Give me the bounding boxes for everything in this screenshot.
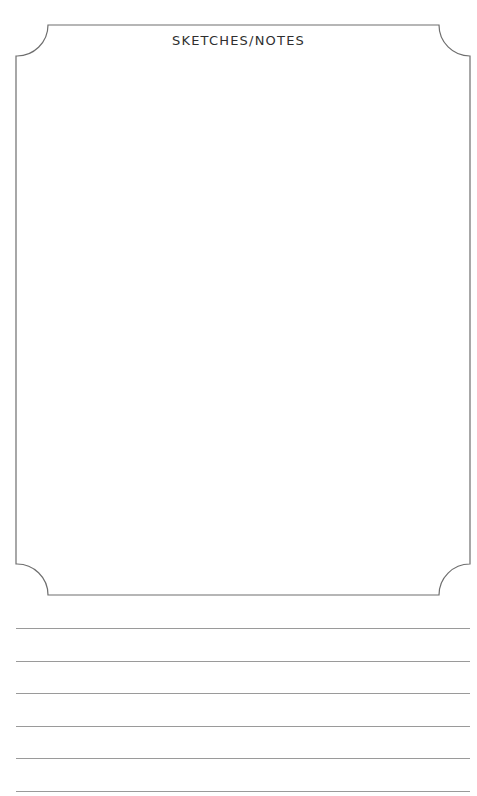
- ruled-line: [16, 726, 470, 727]
- ruled-line: [16, 693, 470, 694]
- frame-border: [16, 25, 470, 595]
- sketch-frame: [0, 0, 477, 796]
- ruled-line: [16, 661, 470, 662]
- ruled-line: [16, 758, 470, 759]
- ruled-line: [16, 791, 470, 792]
- ruled-line: [16, 628, 470, 629]
- page-title: SKETCHES/NOTES: [0, 33, 477, 48]
